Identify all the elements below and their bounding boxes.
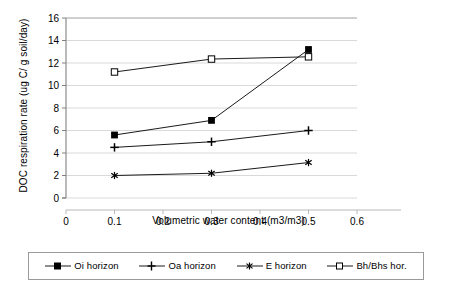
legend-item-e-horizon: E horizon — [237, 261, 307, 271]
svg-text:6: 6 — [53, 125, 59, 136]
svg-text:14: 14 — [48, 35, 60, 46]
svg-text:12: 12 — [48, 58, 60, 69]
legend-item-oi-horizon: Oi horizon — [45, 261, 118, 271]
svg-text:0: 0 — [53, 193, 59, 204]
chart-figure: 0246810121416 00.10.20.30.40.50.6 Volume… — [0, 0, 457, 296]
svg-text:16: 16 — [48, 13, 60, 24]
plot-area: 0246810121416 00.10.20.30.40.50.6 Volume… — [0, 0, 457, 240]
svg-text:8: 8 — [53, 103, 59, 114]
legend-label: Oi horizon — [74, 261, 118, 271]
line-chart-svg: 0246810121416 00.10.20.30.40.50.6 — [0, 0, 457, 240]
svg-text:2: 2 — [53, 170, 59, 181]
y-axis-title: DOC respiration rate (ug C/ g soil/day) — [18, 6, 29, 206]
legend-label: Oa horizon — [168, 261, 215, 271]
legend-label: E horizon — [266, 261, 307, 271]
legend-label: Bh/Bhs hor. — [356, 261, 406, 271]
plus-icon — [139, 261, 165, 271]
filled-square-icon — [45, 261, 71, 271]
x-axis-title: Volumetric water content (m3/m3) — [0, 215, 457, 226]
svg-text:10: 10 — [48, 80, 60, 91]
open-square-icon — [327, 261, 353, 271]
svg-text:4: 4 — [53, 148, 59, 159]
legend-item-bh-bhs-horizon: Bh/Bhs hor. — [327, 261, 406, 271]
asterisk-icon — [237, 261, 263, 271]
chart-legend: Oi horizon Oa horizon E h — [28, 252, 424, 280]
legend-item-oa-horizon: Oa horizon — [139, 261, 215, 271]
y-tick-labels: 0246810121416 — [48, 13, 60, 204]
